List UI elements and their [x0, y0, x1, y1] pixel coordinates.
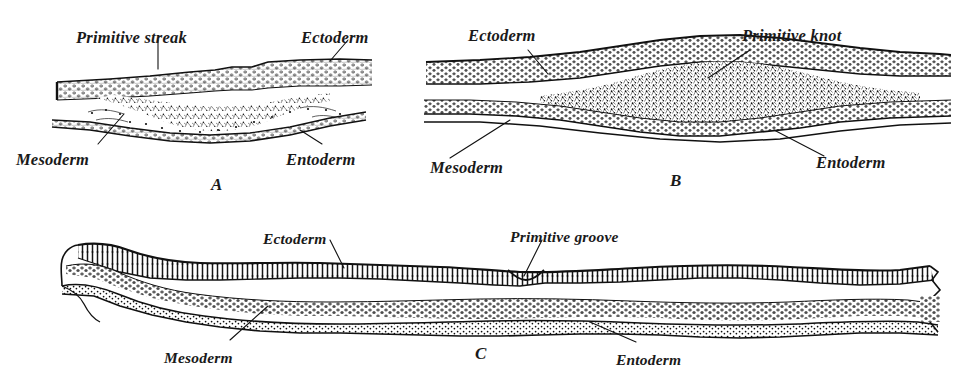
leader-primitive-groove-c [524, 240, 542, 276]
right-mass-c [920, 296, 940, 322]
label-entoderm-c: Entoderm [616, 352, 681, 368]
label-primitive-groove-c: Primitive groove [510, 229, 619, 245]
figure-root: Primitive streak Ectoderm Mesoderm Entod… [0, 0, 957, 386]
label-primitive-knot-b: Primitive knot [742, 28, 842, 45]
label-entoderm-b: Entoderm [816, 155, 885, 172]
panel-a: Primitive streak Ectoderm Mesoderm Entod… [0, 0, 400, 200]
label-ectoderm-b: Ectoderm [468, 28, 536, 45]
label-mesoderm-a: Mesoderm [16, 152, 89, 169]
leader-entoderm-a [300, 130, 322, 144]
panel-letter-a: A [211, 176, 222, 193]
panel-c: Ectoderm Primitive groove Mesoderm Entod… [0, 200, 957, 386]
label-ectoderm-a: Ectoderm [301, 30, 369, 47]
label-mesoderm-c: Mesoderm [164, 350, 233, 366]
label-mesoderm-b: Mesoderm [430, 160, 503, 177]
panel-letter-c: C [475, 345, 486, 362]
label-entoderm-a: Entoderm [286, 152, 355, 169]
label-primitive-streak-a: Primitive streak [76, 30, 187, 47]
label-ectoderm-c: Ectoderm [263, 231, 327, 247]
panel-b: Ectoderm Primitive knot Mesoderm Entoder… [420, 0, 957, 200]
leader-mesoderm-b [450, 120, 510, 158]
panel-letter-b: B [670, 172, 681, 189]
